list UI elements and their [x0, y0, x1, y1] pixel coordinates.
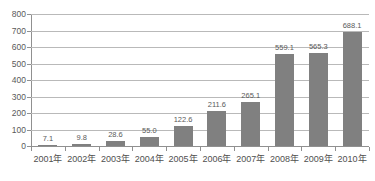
bar [241, 102, 260, 146]
bar [174, 126, 193, 146]
x-tick-mark [234, 147, 235, 151]
bar-value-label: 122.6 [163, 116, 203, 124]
bar [38, 145, 57, 146]
x-tick-mark [335, 147, 336, 151]
y-tick-label: 100 [12, 126, 26, 135]
y-tick-label: 300 [12, 93, 26, 102]
x-tick-mark [369, 147, 370, 151]
bar [275, 54, 294, 146]
bar [343, 32, 362, 146]
bar [72, 144, 91, 146]
bar-value-label: 55.0 [129, 127, 169, 135]
bar-value-label: 265.1 [231, 92, 271, 100]
y-tick-label: 0 [21, 142, 26, 151]
gridline [31, 14, 369, 15]
x-tick-label: 2010年 [330, 154, 374, 164]
x-tick-mark [65, 147, 66, 151]
bar-value-label: 211.6 [197, 101, 237, 109]
y-tick-label: 500 [12, 60, 26, 69]
x-tick-mark [200, 147, 201, 151]
bar-value-label: 688.1 [332, 22, 372, 30]
x-tick-mark [31, 147, 32, 151]
y-tick-label: 400 [12, 76, 26, 85]
y-tick-label: 200 [12, 109, 26, 118]
bar [106, 141, 125, 146]
gridline [31, 31, 369, 32]
x-tick-mark [166, 147, 167, 151]
bar [207, 111, 226, 146]
plot-area [31, 14, 369, 146]
y-tick-label: 800 [12, 10, 26, 19]
bar [309, 53, 328, 146]
bar-chart: 0100200300400500600700800 7.19.828.655.0… [0, 0, 375, 181]
x-tick-mark [268, 147, 269, 151]
y-tick-label: 600 [12, 43, 26, 52]
y-tick-label: 700 [12, 27, 26, 36]
x-tick-mark [99, 147, 100, 151]
x-tick-mark [301, 147, 302, 151]
bar-value-label: 565.3 [298, 43, 338, 51]
x-tick-mark [132, 147, 133, 151]
bar [140, 137, 159, 146]
